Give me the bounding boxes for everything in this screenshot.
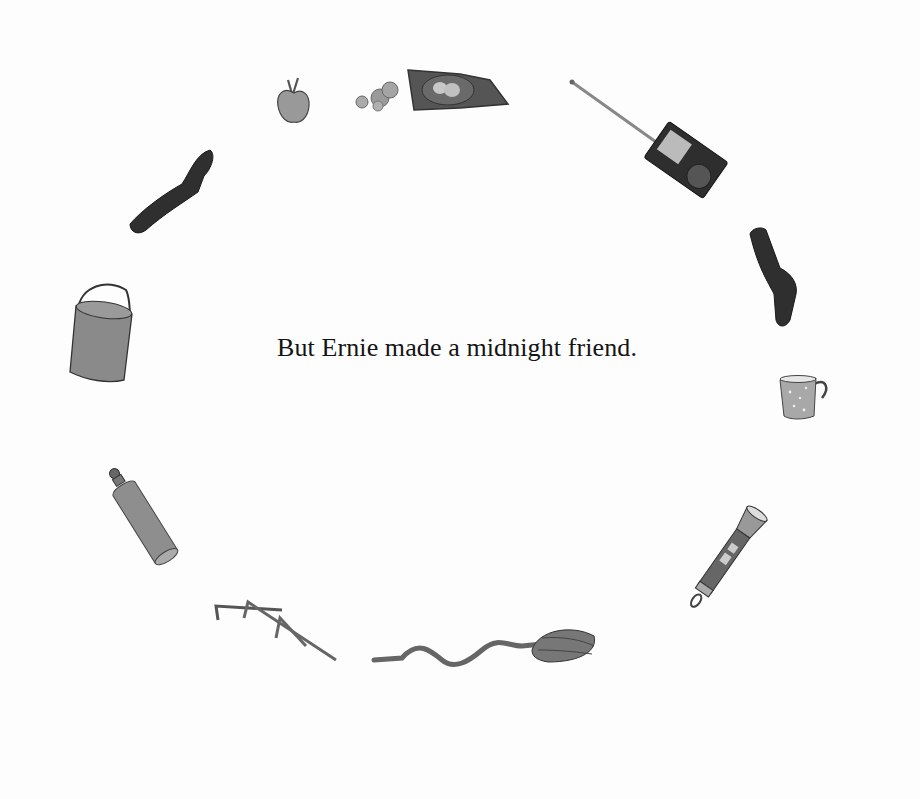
apple-illustration — [274, 76, 314, 128]
sock-left-illustration — [124, 144, 219, 239]
tent-stakes-illustration — [206, 594, 342, 664]
spoon-illustration — [372, 620, 598, 670]
flashlight-illustration — [670, 496, 782, 620]
sock-right-illustration — [744, 224, 804, 332]
chips-bag-illustration — [350, 64, 510, 114]
book-page: But Ernie made a midnight friend. — [0, 0, 920, 799]
bucket-illustration — [68, 276, 140, 384]
radio-illustration — [566, 78, 731, 198]
water-bottle-illustration — [98, 460, 184, 572]
story-caption: But Ernie made a midnight friend. — [262, 333, 652, 363]
mug-illustration — [774, 372, 832, 422]
